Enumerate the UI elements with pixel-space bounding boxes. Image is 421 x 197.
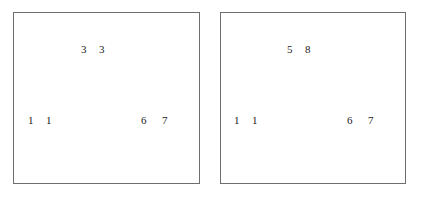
bottom-right-label-2: 7	[368, 114, 374, 126]
top-label-1: 3	[81, 43, 87, 55]
bottom-left-label-2: 1	[46, 114, 52, 126]
bottom-right-label-2: 7	[162, 114, 168, 126]
top-label-2: 8	[305, 43, 311, 55]
bottom-left-label-2: 1	[252, 114, 258, 126]
bottom-right-label-1: 6	[347, 114, 353, 126]
bottom-left-label-1: 1	[234, 114, 240, 126]
right-panel: 5 8 1 1 6 7	[220, 12, 406, 184]
bottom-right-label-1: 6	[141, 114, 147, 126]
left-panel: 3 3 1 1 6 7	[13, 12, 200, 184]
top-label-1: 5	[287, 43, 293, 55]
bottom-left-label-1: 1	[28, 114, 34, 126]
top-label-2: 3	[99, 43, 105, 55]
